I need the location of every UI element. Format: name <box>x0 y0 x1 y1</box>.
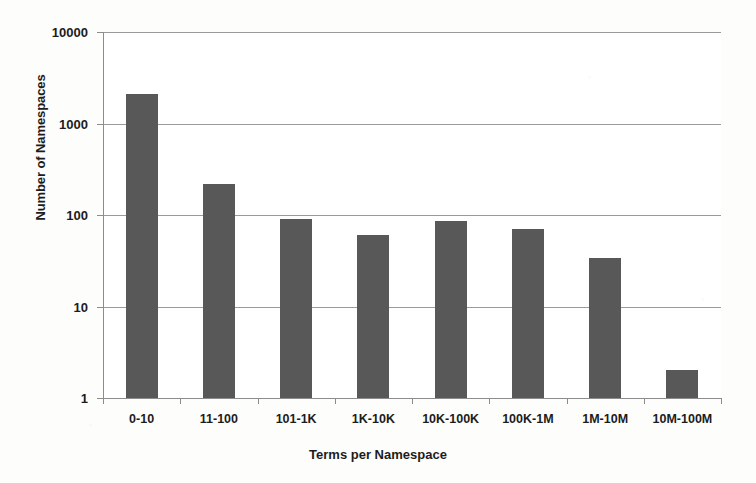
y-axis-line <box>103 32 104 398</box>
x-axis-label-0-10: 0-10 <box>129 412 154 426</box>
x-axis-tick <box>721 398 722 404</box>
x-axis-label-1K-10K: 1K-10K <box>352 412 395 426</box>
x-axis-label-10M-100M: 10M-100M <box>653 412 713 426</box>
gridline-10000 <box>103 32 721 33</box>
gridline-10 <box>103 307 721 308</box>
bar-10K-100K <box>435 221 467 398</box>
plot-area: 110100100010000 0-1011-100101-1K1K-10K10… <box>103 32 721 398</box>
y-axis-tick-label: 10 <box>74 299 88 314</box>
x-axis-label-11-100: 11-100 <box>200 412 238 426</box>
bar-10M-100M <box>666 370 698 398</box>
bar-1K-10K <box>357 235 389 398</box>
bar-100K-1M <box>512 229 544 398</box>
y-axis-title: Number of Namespaces <box>33 48 48 248</box>
gridline-1000 <box>103 124 721 125</box>
y-axis-tick-label: 1 <box>81 391 88 406</box>
x-axis-title: Terms per Namespace <box>0 447 756 462</box>
bar-101-1K <box>280 219 312 398</box>
x-axis-label-10K-100K: 10K-100K <box>422 412 479 426</box>
bar-chart: Number of Namespaces 110100100010000 0-1… <box>0 0 756 483</box>
x-axis-label-101-1K: 101-1K <box>276 412 317 426</box>
x-axis-line <box>103 398 721 399</box>
bar-11-100 <box>203 184 235 398</box>
x-axis-label-100K-1M: 100K-1M <box>502 412 553 426</box>
x-axis-label-1M-10M: 1M-10M <box>582 412 628 426</box>
y-axis-tick-label: 10000 <box>52 25 88 40</box>
y-axis-tick-label: 1000 <box>59 116 88 131</box>
bar-1M-10M <box>589 258 621 398</box>
bar-0-10 <box>126 94 158 398</box>
y-axis-tick-label: 100 <box>66 208 88 223</box>
gridline-100 <box>103 215 721 216</box>
